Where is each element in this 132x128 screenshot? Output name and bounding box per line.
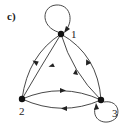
edge-2-to-3-upper — [22, 88, 101, 100]
node-2-label: 2 — [19, 105, 25, 117]
edge-3-to-1-inner — [61, 34, 101, 100]
arrowhead-icon — [94, 103, 99, 110]
edge-1-to-1-self-loop — [45, 5, 70, 33]
node-2 — [19, 96, 25, 102]
node-3-label: 3 — [112, 107, 118, 119]
arrowhead-icon — [60, 88, 66, 93]
edge-1-to-2-inner — [22, 34, 61, 99]
arrowhead-icon — [64, 26, 70, 33]
arrowhead-icon — [84, 59, 92, 67]
node-1-label: 1 — [71, 28, 77, 40]
arrowhead-icon — [61, 106, 67, 111]
node-1 — [58, 31, 64, 37]
directed-graph-diagram: c) 1 2 3 — [0, 0, 132, 128]
edge-1-to-3-outer — [61, 34, 101, 100]
edge-3-to-2-lower — [22, 99, 101, 111]
arrowhead-icon — [48, 62, 55, 69]
node-3 — [98, 97, 104, 103]
panel-label: c) — [7, 10, 16, 23]
